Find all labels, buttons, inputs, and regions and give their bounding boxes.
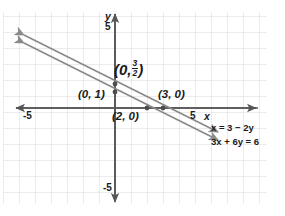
point-label-2-0: (2, 0)	[112, 110, 139, 122]
fraction-3-over-2: 32	[132, 59, 139, 77]
x-axis-label: x	[204, 110, 210, 122]
tick-label-y-minus5: -5	[103, 182, 112, 193]
point-label-3-0: (3, 0)	[158, 88, 185, 100]
point-label-lead: (0,	[114, 61, 132, 78]
point-label-0-3over2: (0,32)	[114, 60, 143, 78]
equation-label-2: 3x + 6y = 6	[211, 136, 259, 147]
point-0-3over2	[113, 82, 118, 87]
point-label-0-1: (0, 1)	[78, 88, 105, 100]
fraction-denominator: 2	[132, 68, 139, 78]
coordinate-plane-canvas	[0, 0, 285, 216]
tick-label-x-minus5: -5	[23, 110, 32, 121]
tick-label-x-5: 5	[190, 110, 196, 121]
point-0-1	[113, 90, 118, 95]
fraction-numerator: 3	[132, 59, 139, 68]
tick-label-y-5: 5	[105, 21, 111, 32]
equation-label-1: x = 3 − 2y	[211, 122, 254, 133]
graph-figure: y x 5 -5 -5 5 (0,32) (0, 1) (2, 0) (3, 0…	[0, 0, 285, 216]
point-3-0	[161, 106, 166, 111]
point-2-0	[145, 106, 150, 111]
point-label-trail: )	[138, 61, 143, 78]
